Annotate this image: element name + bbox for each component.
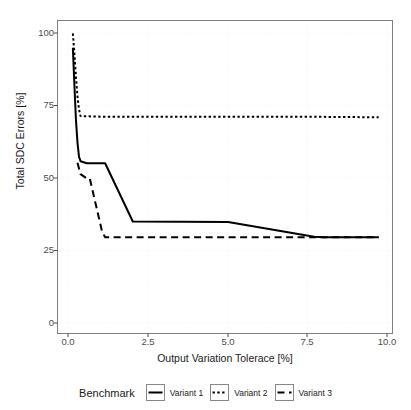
- chart-legend: Benchmark Variant 1 Variant 2: [0, 375, 411, 410]
- y-tick-label: 0: [20, 318, 54, 328]
- x-tick-label: 0.0: [48, 336, 88, 347]
- plot-canvas: [0, 0, 411, 375]
- legend-label: Variant 1: [170, 388, 203, 398]
- y-tick-label: 75: [20, 100, 54, 110]
- legend-key-dashed-icon: [275, 384, 294, 401]
- x-tick-label: 5.0: [208, 336, 248, 347]
- legend-item-variant-3[interactable]: Variant 3: [275, 384, 332, 401]
- legend-label: Variant 3: [299, 388, 332, 398]
- legend-key-dotted-icon: [210, 384, 229, 401]
- legend-title: Benchmark: [79, 387, 135, 399]
- y-axis-tick-labels: 100 75 50 25 0: [14, 0, 54, 375]
- chart-figure: Total SDC Errors [%] 100 75 50 25 0: [0, 0, 411, 410]
- plot-area: Total SDC Errors [%] 100 75 50 25 0: [0, 0, 411, 375]
- legend-key-solid-icon: [146, 384, 165, 401]
- legend-label: Variant 2: [234, 388, 267, 398]
- y-tick-label: 100: [20, 28, 54, 38]
- x-tick-label: 7.5: [287, 336, 327, 347]
- legend-item-variant-1[interactable]: Variant 1: [146, 384, 203, 401]
- x-axis-title: Output Variation Tolerace [%]: [55, 352, 395, 364]
- x-tick-label: 10.0: [367, 336, 407, 347]
- y-tick-label: 50: [20, 173, 54, 183]
- legend-item-variant-2[interactable]: Variant 2: [210, 384, 267, 401]
- y-tick-label: 25: [20, 245, 54, 255]
- x-tick-label: 2.5: [128, 336, 168, 347]
